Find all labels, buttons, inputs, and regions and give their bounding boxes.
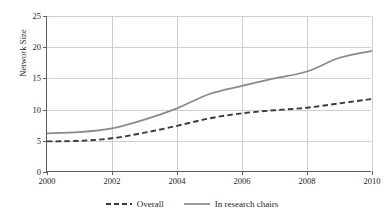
legend-label: In research chairs [215, 199, 278, 209]
y-tick-label: 5 [37, 137, 41, 146]
y-axis-title: Network Size [18, 0, 28, 108]
x-tick-label: 2008 [299, 177, 316, 186]
legend-swatch-dashed-icon [106, 201, 132, 207]
series-line-in-research-chairs [47, 51, 372, 133]
x-tick-label: 2002 [104, 177, 121, 186]
x-tick-label: 2004 [169, 177, 186, 186]
x-tick-label: 2010 [364, 177, 381, 186]
y-tick-label: 10 [33, 105, 42, 114]
legend-item-overall[interactable]: Overall [106, 199, 164, 209]
chart-legend: OverallIn research chairs [0, 199, 384, 209]
x-tick-mark [372, 171, 373, 175]
chart-figure: Network Size 0510152025 2000200220042006… [0, 0, 384, 224]
legend-swatch-solid-icon [184, 201, 210, 207]
y-tick-label: 20 [33, 43, 42, 52]
x-tick-label: 2000 [39, 177, 56, 186]
y-tick-label: 0 [37, 168, 41, 177]
series-lines [47, 16, 372, 172]
plot-area: 0510152025 200020022004200620082010 [46, 16, 371, 172]
series-line-overall [47, 99, 372, 141]
gridline-vertical [372, 16, 373, 171]
legend-label: Overall [137, 199, 164, 209]
y-tick-label: 15 [33, 74, 42, 83]
x-tick-label: 2006 [234, 177, 251, 186]
legend-item-in-research-chairs[interactable]: In research chairs [184, 199, 278, 209]
y-tick-label: 25 [33, 12, 42, 21]
